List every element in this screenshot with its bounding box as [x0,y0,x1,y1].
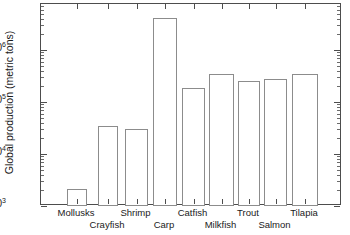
y-axis-tick-minor-right [337,66,340,67]
x-axis-tick-label: Crayfish [78,219,136,230]
y-tick-exponent: 3 [2,197,6,204]
plot-area [40,3,341,205]
y-axis-tick-minor [41,62,44,63]
bar-crayfish [98,126,118,206]
x-axis-tick [249,199,250,204]
y-axis-tick-major-right [334,102,340,103]
y-axis-tick-minor-right [337,55,340,56]
bar-shrimp [125,129,148,206]
x-axis-tick [108,199,109,204]
y-axis-tick-minor [41,166,44,167]
y-axis-tick-major [41,50,47,51]
y-axis-tick-minor-right [337,162,340,163]
y-axis-tick-minor [41,107,44,108]
y-axis-tick-label: 103 [0,199,6,209]
y-axis-tick-minor [41,104,44,105]
y-axis-tick-minor-right [337,190,340,191]
y-axis-tick-minor [41,114,44,115]
y-axis-tick-minor-right [337,25,340,26]
y-axis-tick-minor-right [337,104,340,105]
x-axis-tick-label: Mollusks [47,207,105,218]
y-axis-tick-minor [41,162,44,163]
y-tick-exponent: 4 [2,145,6,152]
x-axis-tick-label: Milkfish [192,219,250,230]
y-axis-tick-minor-right [337,107,340,108]
y-axis-tick-minor-right [337,34,340,35]
y-axis-tick-minor-right [337,71,340,72]
y-axis-tick-minor-right [337,10,340,11]
y-axis-tick-minor [41,110,44,111]
y-axis-tick-minor [41,19,44,20]
x-axis-tick [137,199,138,204]
y-axis-tick-major-right [334,50,340,51]
y-axis-tick-minor [41,71,44,72]
x-axis-tick-top [108,4,109,9]
x-axis-tick-top [77,4,78,9]
y-axis-tick-minor-right [337,170,340,171]
y-axis-tick-minor [41,86,44,87]
x-axis-tick-top [276,4,277,9]
y-axis-tick-minor-right [337,175,340,176]
x-axis-tick-top [249,4,250,9]
y-axis-tick-minor-right [337,19,340,20]
y-axis-tick-minor-right [337,118,340,119]
y-tick-exponent: 6 [2,41,6,48]
x-axis-tick-label: Catfish [164,207,222,218]
bar-carp [153,18,177,206]
x-axis-tick [222,199,223,204]
y-axis-tick-minor-right [337,159,340,160]
x-axis-tick-top [222,4,223,9]
x-axis-tick [276,199,277,204]
x-axis-tick-label: Shrimp [107,207,165,218]
y-axis-tick-minor [41,129,44,130]
y-axis-tick-minor-right [337,86,340,87]
x-axis-tick-top [194,4,195,9]
y-axis-tick-minor [41,181,44,182]
y-axis-tick-minor-right [337,129,340,130]
x-axis-tick-top [137,4,138,9]
y-axis-tick-minor [41,118,44,119]
y-axis-tick-minor-right [337,123,340,124]
y-axis-tick-minor [41,175,44,176]
y-axis-tick-label: 106 [0,43,6,53]
y-axis-tick-minor [41,77,44,78]
x-axis-tick-label: Tilapia [275,207,333,218]
y-axis-tick-minor [41,52,44,53]
x-axis-tick [165,199,166,204]
y-axis-tick-minor-right [337,156,340,157]
y-axis-tick-minor [41,159,44,160]
y-axis-tick-minor-right [337,58,340,59]
x-axis-tick-label: Salmon [246,219,304,230]
y-axis-tick-minor-right [337,6,340,7]
x-axis-tick-top [305,4,306,9]
y-axis-tick-minor [41,25,44,26]
chart-figure: Global production (metric tons) 10310410… [0,0,350,235]
y-axis-tick-minor-right [337,138,340,139]
y-axis-tick-minor [41,66,44,67]
x-axis-tick-label: Trout [219,207,277,218]
y-axis-tick-minor-right [337,52,340,53]
x-axis-tick [77,199,78,204]
bar-catfish [182,88,205,206]
y-axis-tick-minor-right [337,114,340,115]
x-axis-tick [305,199,306,204]
y-axis-tick-minor [41,55,44,56]
y-axis-tick-major-right [334,154,340,155]
y-axis-tick-minor-right [337,110,340,111]
y-axis-tick-minor [41,123,44,124]
x-axis-tick-label: Carp [135,219,193,230]
y-axis-tick-minor [41,58,44,59]
x-axis-tick-top [165,4,166,9]
y-axis-tick-minor [41,6,44,7]
y-axis-tick-minor-right [337,77,340,78]
y-axis-tick-minor [41,190,44,191]
y-axis-tick-minor-right [337,14,340,15]
y-axis-tick-minor [41,138,44,139]
y-axis-tick-minor [41,156,44,157]
y-axis-tick-label: 104 [0,147,6,157]
y-axis-tick-label: 105 [0,95,6,105]
y-axis-tick-major-right [334,206,340,207]
y-axis-tick-major [41,154,47,155]
y-axis-tick-minor [41,10,44,11]
bar-trout [238,81,260,206]
